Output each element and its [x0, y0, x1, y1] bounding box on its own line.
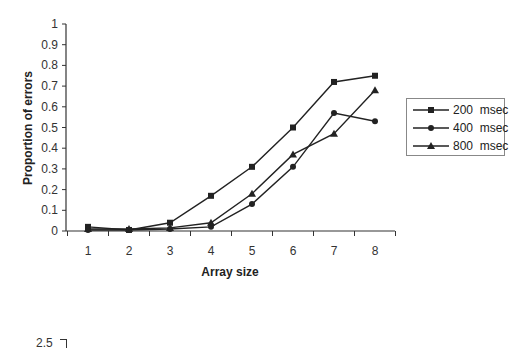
legend: 200 msec 400 msec 800 msec — [406, 98, 505, 156]
square-marker-icon — [413, 104, 449, 116]
y-axis: 00.10.20.30.40.50.60.70.80.91 — [41, 17, 66, 238]
x-axis-title: Array size — [201, 265, 259, 279]
circle-marker-icon — [413, 122, 449, 134]
data-point — [372, 118, 378, 124]
legend-item-400: 400 msec — [413, 119, 508, 137]
data-point — [208, 193, 214, 199]
y-tick-label: 0.5 — [41, 121, 58, 135]
x-tick-label: 3 — [167, 244, 174, 258]
series-layer — [84, 73, 379, 233]
ytick-label: 2.5 — [36, 336, 53, 350]
x-tick-label: 6 — [290, 244, 297, 258]
triangle-marker-icon — [413, 140, 449, 152]
data-point — [331, 110, 337, 116]
legend-item-200: 200 msec — [413, 101, 508, 119]
y-tick-label: 1 — [51, 17, 58, 31]
data-point — [290, 164, 296, 170]
y-tick-label: 0.9 — [41, 38, 58, 52]
x-tick-label: 2 — [126, 244, 133, 258]
data-point — [249, 201, 255, 207]
series-circle — [85, 110, 378, 233]
legend-label: 400 msec — [453, 121, 508, 135]
x-axis: 12345678 — [66, 231, 396, 258]
y-tick-label: 0 — [51, 224, 58, 238]
data-point — [290, 125, 296, 131]
x-tick-label: 1 — [85, 244, 92, 258]
y-tick-label: 0.8 — [41, 58, 58, 72]
x-tick-label: 5 — [249, 244, 256, 258]
y-tick-label: 0.6 — [41, 100, 58, 114]
data-point — [289, 150, 297, 157]
y-tick-label: 0.3 — [41, 162, 58, 176]
data-point — [207, 219, 215, 226]
second-chart-ytick: 2.5 — [36, 336, 67, 350]
legend-label: 200 msec — [453, 103, 508, 117]
y-tick-label: 0.1 — [41, 203, 58, 217]
y-tick-label: 0.4 — [41, 141, 58, 155]
axis-corner — [60, 339, 67, 348]
data-point — [372, 73, 378, 79]
x-tick-label: 8 — [372, 244, 379, 258]
series-triangle — [84, 86, 379, 232]
x-tick-label: 4 — [208, 244, 215, 258]
y-axis-title: Proportion of errors — [21, 71, 35, 185]
data-point — [249, 164, 255, 170]
legend-label: 800 msec — [453, 139, 508, 153]
line-chart: 00.10.20.30.40.50.60.70.80.91 12345678 P… — [0, 0, 525, 353]
x-tick-label: 7 — [331, 244, 338, 258]
data-point — [371, 86, 379, 93]
y-tick-label: 0.7 — [41, 79, 58, 93]
y-tick-label: 0.2 — [41, 183, 58, 197]
legend-item-800: 800 msec — [413, 137, 508, 155]
data-point — [331, 79, 337, 85]
